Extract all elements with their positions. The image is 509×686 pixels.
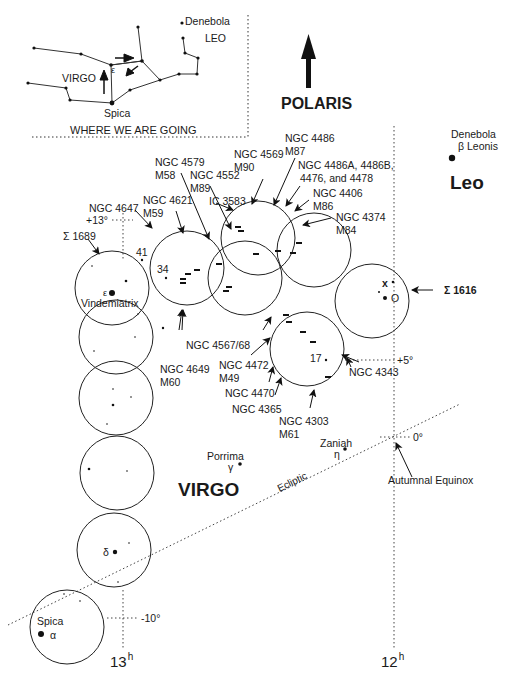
sigma1689-label: Σ 1689 bbox=[63, 230, 96, 243]
ngc4472-line1: NGC 4472 bbox=[219, 359, 269, 372]
ic3583-label: IC 3583 bbox=[209, 195, 246, 208]
ngc4579-line2: M58 bbox=[155, 169, 175, 182]
ra-13-unit: h bbox=[128, 651, 134, 662]
polaris-arrow-icon bbox=[301, 34, 316, 88]
ra-13h-label: 13h bbox=[110, 655, 132, 670]
pointer-arrows bbox=[88, 158, 433, 477]
ra-12-value: 12 bbox=[381, 653, 398, 670]
ngc4579-line1: NGC 4579 bbox=[155, 156, 205, 169]
inset-title: WHERE WE ARE GOING bbox=[70, 124, 197, 137]
spica-greek: α bbox=[50, 629, 56, 642]
ngc4569-line1: NGC 4569 bbox=[234, 148, 284, 161]
inset-epsilon-label: ε bbox=[111, 64, 115, 77]
inset-leo-label: LEO bbox=[205, 32, 226, 45]
inset-denebola-label: Denebola bbox=[185, 15, 230, 28]
ngc4621-line1: NGC 4621 bbox=[143, 194, 193, 207]
leo-label: Leo bbox=[450, 176, 484, 189]
porrima-name: Porrima bbox=[207, 450, 244, 463]
ngc4365-label: NGC 4365 bbox=[232, 403, 282, 416]
dec-0-label: 0° bbox=[413, 431, 423, 444]
ngc4486a-line2: 4476, and 4478 bbox=[300, 172, 373, 185]
ngc4649-line2: M60 bbox=[160, 376, 180, 389]
star-chart bbox=[0, 0, 509, 686]
ngc4374-line1: NGC 4374 bbox=[336, 211, 386, 224]
porrima-greek: γ bbox=[228, 461, 233, 474]
dec-minus10-label: -10° bbox=[141, 612, 160, 625]
star-o-label: O bbox=[391, 292, 399, 305]
sigma1616-label: Σ 1616 bbox=[444, 284, 477, 297]
inset-motion-arrows bbox=[100, 54, 138, 94]
ngc4343-label: NGC 4343 bbox=[349, 366, 399, 379]
pointer-arrow-fix bbox=[179, 310, 182, 330]
virgo-label: VIRGO bbox=[178, 483, 239, 496]
ngc4374-line2: M84 bbox=[336, 224, 356, 237]
polaris-label: POLARIS bbox=[281, 97, 352, 110]
delta-greek: δ bbox=[103, 546, 109, 559]
ra-12h-label: 12h bbox=[381, 655, 403, 670]
ngc4567-label: NGC 4567/68 bbox=[186, 339, 250, 352]
ngc4486-line1: NGC 4486 bbox=[285, 132, 335, 145]
ngc4649-line1: NGC 4649 bbox=[160, 363, 210, 376]
ngc4621-line2: M59 bbox=[143, 207, 163, 220]
ngc4552-line2: M89 bbox=[190, 182, 210, 195]
ngc4486a-line1: NGC 4486A, 4486B, bbox=[298, 159, 394, 172]
ngc4470-label: NGC 4470 bbox=[225, 387, 275, 400]
vindemiatrix-name: Vindemiatrix bbox=[81, 297, 139, 310]
ngc4486-line2: M87 bbox=[285, 145, 305, 158]
ra-13-value: 13 bbox=[110, 653, 127, 670]
ngc4472-line2: M49 bbox=[219, 372, 239, 385]
inset-virgo-label: VIRGO bbox=[62, 72, 96, 85]
star-number-17: 17 bbox=[310, 352, 322, 365]
star-x-label: x bbox=[382, 277, 388, 290]
ngc4406-line2: M86 bbox=[313, 200, 333, 213]
ngc4303-line2: M61 bbox=[279, 428, 299, 441]
spica-name: Spica bbox=[37, 615, 63, 628]
star-number-41: 41 bbox=[136, 246, 148, 259]
ngc4552-line1: NGC 4552 bbox=[190, 169, 240, 182]
denebola-designation: β Leonis bbox=[458, 140, 498, 153]
star-number-34: 34 bbox=[157, 263, 169, 276]
inset-spica-label: Spica bbox=[104, 107, 130, 120]
autumnal-equinox-label: Autumnal Equinox bbox=[388, 474, 473, 487]
field-of-view-circles bbox=[30, 201, 409, 664]
ra-12-unit: h bbox=[399, 651, 405, 662]
ngc4303-line1: NGC 4303 bbox=[279, 415, 329, 428]
zaniah-greek: η bbox=[334, 448, 340, 461]
dec-plus5-label: +5° bbox=[397, 354, 413, 367]
dec-plus13-label: +13° bbox=[86, 214, 108, 227]
ngc4406-line1: NGC 4406 bbox=[313, 187, 363, 200]
